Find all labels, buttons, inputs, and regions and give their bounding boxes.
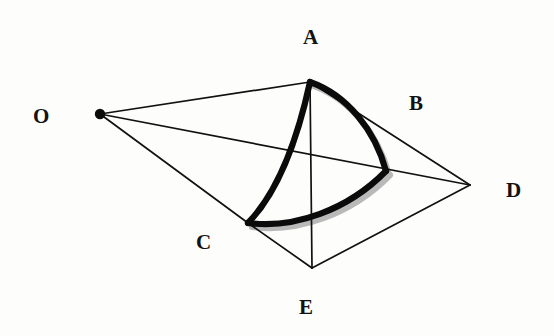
vertex-label-d: D <box>506 180 521 201</box>
vertex-label-o: O <box>33 106 49 127</box>
figure-canvas <box>0 0 554 336</box>
edge-o-c <box>100 114 248 223</box>
arc-a-b <box>310 82 386 171</box>
vertex-label-b: B <box>409 93 423 114</box>
vertex-dot-o <box>95 109 105 119</box>
vertex-label-e: E <box>299 297 313 318</box>
edge-a-e <box>310 82 312 268</box>
vertex-label-a: A <box>303 27 318 48</box>
vertex-label-c: C <box>196 232 211 253</box>
geometry-figure: O A B C D E <box>0 0 554 336</box>
thick-arc-group <box>248 82 386 224</box>
edge-o-a <box>100 82 310 114</box>
edge-e-d <box>312 185 470 268</box>
